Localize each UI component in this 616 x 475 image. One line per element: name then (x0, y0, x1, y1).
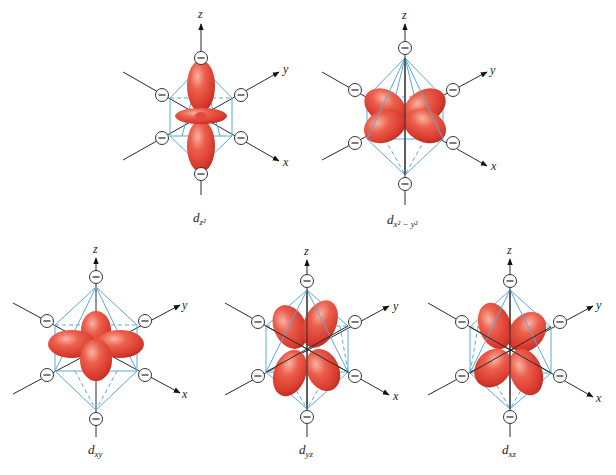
y-axis-label: y (595, 298, 602, 312)
z-axis-label: z (303, 244, 309, 258)
d-orbital-diagram: z y x dz² (0, 0, 616, 475)
minus-charge-icon (554, 316, 567, 329)
minus-charge-icon (41, 315, 54, 328)
minus-charge-icon (41, 369, 54, 382)
minus-charge-icon (456, 316, 469, 329)
orbital-label-dyz: dyz (299, 442, 313, 459)
z-axis-label: z (506, 243, 512, 257)
z-axis-label: z (401, 8, 407, 22)
minus-charge-icon (252, 370, 265, 383)
minus-charge-icon (399, 178, 412, 191)
minus-charge-icon (349, 370, 362, 383)
minus-charge-icon (504, 411, 517, 424)
minus-charge-icon (252, 316, 265, 329)
minus-charge-icon (195, 52, 208, 65)
x-axis-label: x (181, 387, 188, 401)
y-axis-label: y (181, 298, 188, 312)
orbital-label-dxy: dxy (88, 442, 103, 459)
x-axis-label: x (392, 389, 399, 403)
minus-charge-icon (504, 275, 517, 288)
x-axis-label: x (282, 155, 289, 169)
panel-dxz: z y x (428, 243, 602, 459)
minus-charge-icon (349, 316, 362, 329)
orbital-label-dz2: dz² (193, 210, 206, 227)
minus-charge-icon (90, 413, 103, 426)
minus-charge-icon (139, 315, 152, 328)
minus-charge-icon (195, 168, 208, 181)
z-axis-label: z (92, 242, 98, 256)
minus-charge-icon (447, 84, 460, 97)
minus-charge-icon (156, 132, 169, 145)
minus-charge-icon (349, 137, 362, 150)
minus-charge-icon (447, 137, 460, 150)
minus-charge-icon (554, 370, 567, 383)
y-axis-label: y (489, 63, 496, 77)
orbital-dz2-lobes (175, 60, 227, 172)
minus-charge-icon (235, 132, 248, 145)
panel-dxy: z y x dxy (13, 242, 188, 459)
orbital-label-dxz: dxz (502, 442, 516, 459)
x-axis-label: x (595, 391, 602, 405)
minus-charge-icon (301, 275, 314, 288)
z-axis-label: z (197, 7, 203, 21)
y-axis-label: y (392, 299, 399, 313)
y-axis-label: y (282, 62, 289, 76)
minus-charge-icon (156, 89, 169, 102)
x-axis-label: x (490, 159, 497, 173)
minus-charge-icon (301, 411, 314, 424)
panel-dx2-y2: z y x (322, 8, 497, 229)
minus-charge-icon (235, 89, 248, 102)
minus-charge-icon (456, 370, 469, 383)
orbital-label-dx2-y2: dx² − y² (387, 212, 418, 229)
panel-dyz: z y x (225, 244, 399, 459)
panel-dz2: z y x dz² (123, 7, 289, 227)
point-charges (456, 275, 567, 424)
minus-charge-icon (399, 42, 412, 55)
minus-charge-icon (349, 84, 362, 97)
minus-charge-icon (139, 369, 152, 382)
minus-charge-icon (90, 271, 103, 284)
